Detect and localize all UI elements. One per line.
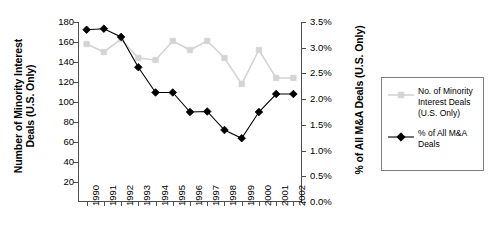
x-axis-tick-label: 1997 [211, 185, 221, 206]
square-marker [222, 55, 227, 60]
right-axis-title: % of All M&A Deals (U.S. Only) [353, 13, 365, 188]
x-axis-tick-label: 1995 [177, 185, 187, 206]
right-axis-tick-label: 2.0% [310, 94, 332, 104]
left-axis-tick-label: 140 [58, 57, 74, 67]
left-axis-tick-labels: 20406080100120140160180 [40, 0, 74, 244]
series-line [87, 39, 294, 84]
series-layer [78, 22, 302, 202]
diamond-marker [100, 25, 108, 33]
diamond-marker [152, 89, 160, 97]
square-marker [187, 47, 192, 52]
square-marker [136, 55, 141, 60]
x-axis-tick-label: 2002 [297, 185, 307, 206]
square-marker [84, 41, 89, 46]
right-axis-tick-label: 0.0% [310, 197, 332, 207]
x-axis-tick-label: 1996 [194, 185, 204, 206]
left-axis-title: Number of Minority Interest Deals (U.S. … [12, 19, 36, 194]
square-marker [101, 49, 106, 54]
right-axis-tick-label: 2.5% [310, 68, 332, 78]
square-marker [386, 88, 416, 102]
series-line [87, 29, 294, 139]
series-2 [83, 25, 297, 142]
right-axis-tick-label: 0.5% [310, 171, 332, 181]
right-axis-tick-labels: 0.0%0.5%1.0%1.5%2.0%2.5%3.0%3.5% [310, 0, 350, 244]
diamond-marker [135, 63, 143, 71]
left-axis-tick-label: 160 [58, 37, 74, 47]
legend-label: % of All M&A Deals [418, 128, 467, 150]
square-marker [256, 47, 261, 52]
square-marker [291, 75, 296, 80]
x-axis-tick-label: 1993 [142, 185, 152, 206]
x-axis-tick-label: 1998 [228, 185, 238, 206]
diamond-marker [83, 26, 91, 34]
right-axis-tick-label: 1.5% [310, 120, 332, 130]
right-axis-tick-label: 3.0% [310, 43, 332, 53]
chart-figure: Number of Minority Interest Deals (U.S. … [0, 0, 490, 244]
x-axis-tick-label: 1990 [91, 185, 101, 206]
chart-legend: No. of Minority Interest Deals (U.S. Onl… [381, 77, 484, 171]
square-marker [153, 57, 158, 62]
diamond-marker [290, 90, 298, 98]
left-axis-tick-label: 180 [58, 17, 74, 27]
x-axis-tick-label: 1994 [160, 185, 170, 206]
x-axis-tick-label: 2000 [263, 185, 273, 206]
right-axis-tick-label: 1.0% [310, 146, 332, 156]
x-axis-tick-label: 1999 [246, 185, 256, 206]
square-marker [205, 38, 210, 43]
x-axis-tick-label: 1992 [125, 185, 135, 206]
diamond-marker [386, 130, 416, 144]
series-1 [84, 36, 296, 86]
diamond-marker [238, 134, 246, 142]
square-marker [170, 38, 175, 43]
left-axis-tick-label: 120 [58, 77, 74, 87]
x-axis-tick-label: 2001 [280, 185, 290, 206]
square-marker [273, 75, 278, 80]
left-axis-tick-label: 100 [58, 97, 74, 107]
x-axis-tick-labels: 1990199119921993199419951996199719981999… [78, 204, 302, 244]
x-axis-tick-label: 1991 [108, 185, 118, 206]
square-marker [239, 81, 244, 86]
legend-label: No. of Minority Interest Deals (U.S. Onl… [418, 86, 473, 119]
right-axis-tick-label: 3.5% [310, 17, 332, 27]
